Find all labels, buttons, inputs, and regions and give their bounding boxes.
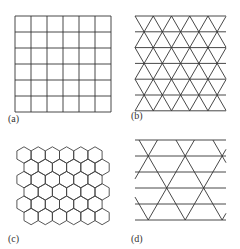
kagome-lattice bbox=[135, 140, 226, 220]
hexagonal-lattice bbox=[17, 147, 109, 225]
triangular-lattice bbox=[135, 16, 226, 111]
square-lattice bbox=[15, 16, 111, 112]
lattice-figure bbox=[0, 0, 240, 249]
panel-label-c: (c) bbox=[8, 233, 19, 244]
panel-label-a: (a) bbox=[8, 113, 19, 124]
panel-label-d: (d) bbox=[131, 233, 143, 244]
panel-label-b: (b) bbox=[131, 110, 143, 121]
